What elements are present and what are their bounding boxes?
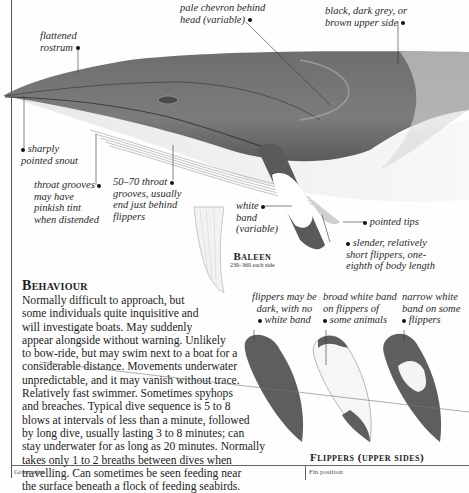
footer-fin-position: Fin position <box>309 468 343 476</box>
label-throat-grooves-tint: throat grooves may have pinkish tint whe… <box>34 179 101 225</box>
leader-dot-icon <box>258 319 262 323</box>
label-flattened-rostrum: flattened rostrum <box>40 30 80 53</box>
label-line: short flippers, one- <box>346 249 435 261</box>
label-line: sharply <box>21 143 78 155</box>
label-upper-side: black, dark grey, or brown upper side <box>325 5 407 28</box>
baleen-caption: Baleen 230–360 each side <box>230 250 275 268</box>
label-line: rostrum <box>40 42 80 54</box>
label-pale-chevron: pale chevron behind head (variable) <box>180 2 265 25</box>
label-line: narrow white <box>402 291 460 303</box>
label-line: brown upper side <box>325 17 407 29</box>
label-line: black, dark grey, or <box>325 5 407 17</box>
label-line: broad white band <box>323 291 397 303</box>
label-line: 50–70 throat <box>113 176 181 188</box>
label-line: band <box>236 212 278 224</box>
label-text: head (variable) <box>180 14 245 25</box>
flipper-broad-band-label: broad white band on flippers of some ani… <box>323 291 397 326</box>
label-slender-flippers: slender, relatively short flippers, one-… <box>346 237 435 272</box>
label-line: white band <box>252 314 317 326</box>
leader-dot-icon <box>401 21 405 25</box>
leader-dot-icon <box>170 181 174 185</box>
footer-divider <box>305 465 306 480</box>
label-line: when distended <box>34 214 101 226</box>
label-text: sharply <box>28 143 60 154</box>
flippers-caption: Flippers (upper sides) <box>310 451 424 463</box>
label-line: dark, with no <box>252 303 317 315</box>
label-text: white <box>236 200 259 211</box>
baleen-title: Baleen <box>230 250 275 262</box>
label-line: throat grooves <box>34 179 101 191</box>
label-line: flippers <box>113 211 181 223</box>
label-line: flattened <box>40 30 80 42</box>
label-line: eighth of body length <box>346 260 435 272</box>
label-line: white <box>236 200 278 212</box>
label-line: (variable) <box>236 223 278 235</box>
behaviour-line: the surface beneath a flock of feeding s… <box>22 480 292 493</box>
leader-dot-icon <box>97 184 101 188</box>
label-line: pointed snout <box>21 155 78 167</box>
label-line: on flippers of <box>323 303 397 315</box>
label-line: some animals <box>323 314 397 326</box>
label-throat-grooves-count: 50–70 throat grooves, usually end just b… <box>113 176 181 222</box>
leader-dot-icon <box>346 242 350 246</box>
label-text: slender, relatively <box>353 237 427 248</box>
label-line: may have <box>34 191 101 203</box>
label-text: brown upper side <box>325 17 398 28</box>
leader-dot-icon <box>76 46 80 50</box>
label-line: slender, relatively <box>346 237 435 249</box>
footer-group-size: Group size <box>14 468 45 476</box>
label-text: 50–70 throat <box>113 176 167 187</box>
label-line: head (variable) <box>180 14 265 26</box>
label-line: end just behind <box>113 199 181 211</box>
leader-dot-icon <box>248 18 252 22</box>
leader-dot-icon <box>402 319 406 323</box>
label-line: pale chevron behind <box>180 2 265 14</box>
leader-dot-icon <box>363 221 367 225</box>
label-line: flippers may be <box>252 291 317 303</box>
footer-rule <box>11 465 469 466</box>
label-pointed-snout: sharply pointed snout <box>21 143 78 166</box>
label-line: band on some <box>402 303 460 315</box>
label-line: flippers <box>402 314 460 326</box>
baleen-subtitle: 230–360 each side <box>230 262 275 268</box>
label-text: rostrum <box>40 42 73 53</box>
label-text: some animals <box>330 314 387 325</box>
label-text: pointed tips <box>370 216 419 227</box>
behaviour-line: travelling. Can sometimes be seen feedin… <box>22 467 292 480</box>
leader-dot-icon <box>21 148 25 152</box>
page-stray-line <box>0 360 469 420</box>
label-line: pinkish tint <box>34 202 101 214</box>
label-white-band: white band (variable) <box>236 200 278 235</box>
flipper-narrow-band-label: narrow white band on some flippers <box>402 291 460 326</box>
leader-dot-icon <box>323 319 327 323</box>
label-text: white band <box>265 314 311 325</box>
label-text: flippers <box>409 314 441 325</box>
label-line: grooves, usually <box>113 188 181 200</box>
leader-dot-icon <box>261 205 265 209</box>
label-text: throat grooves <box>34 179 95 190</box>
label-pointed-tips: pointed tips <box>363 216 419 228</box>
flipper-dark-label: flippers may be dark, with no white band <box>252 291 317 326</box>
